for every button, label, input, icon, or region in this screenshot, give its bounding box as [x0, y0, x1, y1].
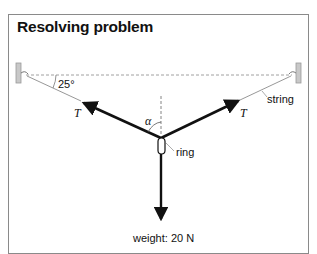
string-label: string: [267, 93, 294, 105]
right-hook-icon: [289, 72, 296, 74]
alpha-label: α: [145, 114, 152, 128]
left-wall-mount: [16, 63, 21, 83]
tension-label-right: T: [240, 106, 248, 120]
right-wall-mount: [296, 63, 301, 83]
angle-label: 25°: [58, 78, 75, 90]
ring-leader-line: [166, 143, 174, 151]
tension-label-left: T: [74, 106, 82, 120]
angle-arc-25: [53, 75, 56, 88]
weight-label: weight: 20 N: [132, 232, 194, 244]
ring-icon: [158, 138, 165, 154]
ring-label: ring: [176, 146, 194, 158]
left-hook-icon: [21, 72, 28, 74]
tension-arrow-right: [161, 101, 238, 138]
